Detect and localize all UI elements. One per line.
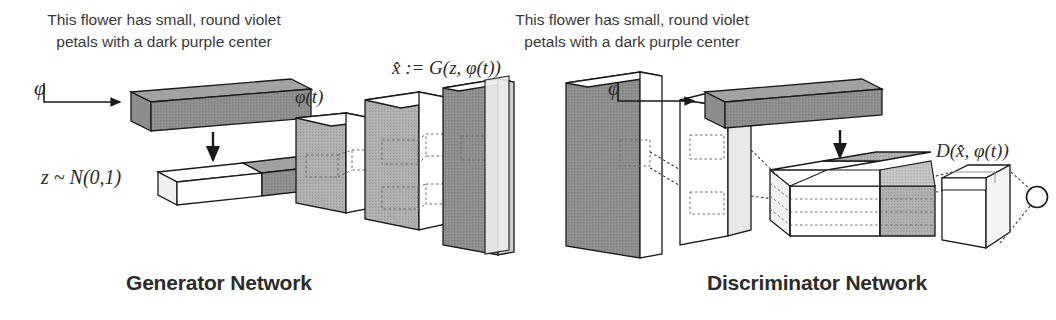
discriminator-concat-block [770, 152, 935, 236]
discriminator-output-node [1027, 187, 1048, 208]
generator-phi-connector [44, 83, 120, 102]
discriminator-text-description-line1: This flower has small, round violet [498, 9, 766, 31]
generator-noise-bar [158, 157, 315, 205]
discriminator-text-description: This flower has small, round violet peta… [498, 9, 766, 53]
discriminator-caption: Discriminator Network [707, 271, 927, 295]
discriminator-phi-label: φ [608, 76, 620, 101]
discriminator-text-description-line2: petals with a dark purple center [498, 31, 766, 53]
generator-noise-label: z ~ N(0,1) [41, 166, 121, 189]
generator-output-slab-back [485, 76, 509, 254]
gan-architecture-figure: This flower has small, round violet peta… [0, 0, 1056, 320]
generator-text-description: This flower has small, round violet peta… [30, 9, 298, 53]
generator-caption: Generator Network [126, 271, 312, 295]
generator-deconv-block-2 [365, 92, 455, 230]
generator-text-embedding-bar [131, 79, 311, 131]
generator-phi-label: φ [34, 76, 46, 101]
discriminator-output-label: D(x̂, φ(t)) [936, 140, 1009, 162]
generator-text-description-line2: petals with a dark purple center [30, 31, 298, 53]
discriminator-conv-block-2 [942, 165, 1010, 248]
generator-phi-t-label: φ(t) [295, 86, 323, 108]
generator-output-label: x̂ := G(z, φ(t)) [392, 57, 501, 79]
generator-text-description-line1: This flower has small, round violet [30, 9, 298, 31]
discriminator-text-embedding-bar [705, 79, 882, 128]
